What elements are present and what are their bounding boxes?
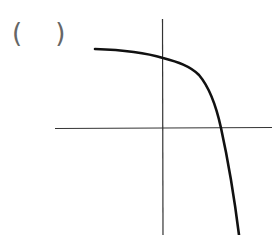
x-axis: [55, 128, 272, 129]
function-curve: [95, 49, 239, 235]
y-axis: [163, 19, 164, 235]
function-graph: [0, 0, 274, 235]
